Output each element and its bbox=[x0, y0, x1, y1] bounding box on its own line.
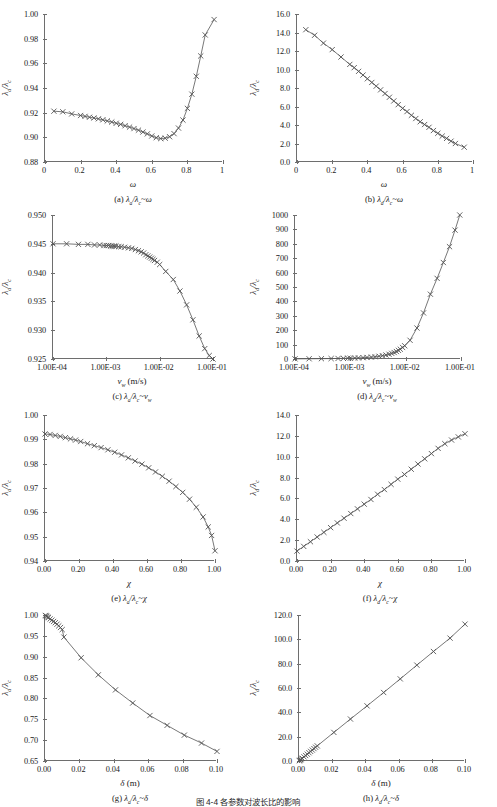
data-point-marker bbox=[421, 310, 426, 315]
data-point-marker bbox=[382, 91, 387, 96]
y-tick-label: 120.0 bbox=[248, 611, 292, 620]
data-point-marker bbox=[176, 125, 181, 130]
x-tick-label: 0.10 bbox=[209, 765, 223, 774]
plot-area-c bbox=[52, 215, 212, 359]
data-point-marker bbox=[190, 317, 195, 322]
y-tick-label: 12.0 bbox=[248, 431, 290, 440]
data-point-marker bbox=[96, 672, 101, 677]
plot-area-a bbox=[44, 14, 222, 162]
figure-bottom-caption: 图 4-4 各参数对波长比的影响 bbox=[196, 795, 301, 807]
y-tick-label: 0.945 bbox=[0, 239, 46, 248]
data-point-marker bbox=[395, 477, 400, 482]
y-axis-label: λa/λc bbox=[0, 68, 12, 108]
data-point-marker bbox=[415, 461, 420, 466]
data-point-marker bbox=[63, 435, 68, 440]
subplot-cell-d: 010020030040050060070080090010001.00E-04… bbox=[248, 199, 497, 399]
data-point-marker bbox=[418, 119, 423, 124]
data-point-marker bbox=[189, 92, 194, 97]
data-point-marker bbox=[462, 431, 467, 436]
data-point-marker bbox=[85, 441, 90, 446]
y-tick-label: 900 bbox=[248, 225, 288, 234]
data-point-marker bbox=[422, 456, 427, 461]
data-point-marker bbox=[182, 733, 187, 738]
data-point-marker bbox=[303, 27, 308, 32]
y-tick-label: 100 bbox=[248, 340, 288, 349]
x-tick-label: 0.6 bbox=[146, 166, 156, 175]
plot-e: 0.940.950.960.970.980.991.000.000.200.40… bbox=[0, 399, 248, 599]
data-point-marker bbox=[456, 434, 461, 439]
x-axis-label: δ (m) bbox=[120, 778, 139, 788]
data-point-marker bbox=[201, 514, 206, 519]
data-point-marker bbox=[360, 72, 365, 77]
data-point-marker bbox=[341, 516, 346, 521]
data-point-marker bbox=[184, 302, 189, 307]
data-point-marker bbox=[60, 627, 65, 632]
y-tick-label: 0.98 bbox=[0, 34, 38, 43]
data-point-marker bbox=[92, 443, 97, 448]
y-tick-label: 80.0 bbox=[248, 659, 292, 668]
plot-area-h bbox=[298, 615, 464, 761]
series-line bbox=[54, 20, 214, 139]
data-point-marker bbox=[206, 524, 211, 529]
y-tick-label: 0.95 bbox=[0, 631, 38, 640]
plot-a: 0.880.900.920.940.960.981.0000.20.40.60.… bbox=[0, 0, 248, 199]
data-point-marker bbox=[194, 505, 199, 510]
x-tick-label: 1 bbox=[220, 166, 224, 175]
y-tick-label: 0.0 bbox=[248, 557, 290, 566]
y-tick-label: 0.98 bbox=[0, 459, 38, 468]
data-point-marker bbox=[457, 212, 462, 217]
y-axis-label: λd/λc bbox=[248, 267, 260, 307]
data-point-marker bbox=[61, 635, 66, 640]
x-tick-label: 1.00E-01 bbox=[197, 363, 227, 372]
x-axis-label: vw (m/s) bbox=[117, 376, 146, 388]
subplot-cell-h: 0.020.040.060.080.0100.0120.00.000.020.0… bbox=[248, 599, 497, 799]
plot-c: 0.9250.9300.9350.9400.9450.9501.00E-041.… bbox=[0, 199, 248, 399]
data-point-marker bbox=[133, 458, 138, 463]
data-point-marker bbox=[321, 530, 326, 535]
data-point-marker bbox=[452, 228, 457, 233]
y-axis-label: λd/λc bbox=[248, 68, 260, 108]
data-point-marker bbox=[127, 125, 132, 130]
y-tick-label: 700 bbox=[248, 254, 288, 263]
y-tick-label: 0.930 bbox=[0, 326, 46, 335]
plot-b: 0.02.04.06.08.010.012.014.016.000.20.40.… bbox=[248, 0, 497, 199]
y-tick-label: 0.95 bbox=[0, 532, 38, 541]
plot-d: 010020030040050060070080090010001.00E-04… bbox=[248, 199, 497, 399]
x-tick-label: 1.00E-02 bbox=[390, 363, 420, 372]
x-tick-label: 1.00 bbox=[457, 565, 471, 574]
y-tick-label: 300 bbox=[248, 311, 288, 320]
plot-area-d bbox=[294, 215, 460, 359]
subplot-cell-f: 0.02.04.06.08.010.012.014.00.000.200.400… bbox=[248, 399, 497, 599]
y-tick-label: 0.65 bbox=[0, 757, 38, 766]
series-c bbox=[53, 215, 221, 367]
y-tick-label: 4.0 bbox=[248, 515, 290, 524]
data-point-marker bbox=[331, 730, 336, 735]
data-point-marker bbox=[112, 450, 117, 455]
y-tick-label: 800 bbox=[248, 239, 288, 248]
data-point-marker bbox=[447, 244, 452, 249]
y-tick-label: 1.00 bbox=[0, 411, 38, 420]
data-point-marker bbox=[374, 84, 379, 89]
x-tick-label: 0.02 bbox=[71, 765, 85, 774]
y-tick-label: 0.96 bbox=[0, 59, 38, 68]
data-point-marker bbox=[99, 445, 104, 450]
y-axis-label: λa/λc bbox=[0, 468, 12, 508]
y-tick-label: 1000 bbox=[248, 211, 288, 220]
x-tick-label: 0.2 bbox=[326, 166, 336, 175]
data-point-marker bbox=[109, 119, 114, 124]
data-point-marker bbox=[187, 497, 192, 502]
x-tick-label: 0.4 bbox=[361, 166, 371, 175]
plot-area-e bbox=[44, 415, 214, 561]
data-point-marker bbox=[160, 474, 165, 479]
data-point-marker bbox=[435, 276, 440, 281]
data-point-marker bbox=[197, 333, 202, 338]
data-point-marker bbox=[413, 116, 418, 121]
data-point-marker bbox=[328, 525, 333, 530]
x-tick-label: 0.08 bbox=[175, 765, 189, 774]
y-tick-label: 10.0 bbox=[248, 452, 290, 461]
data-point-marker bbox=[368, 497, 373, 502]
plot-g: 0.650.700.750.800.850.900.951.000.000.02… bbox=[0, 599, 248, 799]
series-a bbox=[45, 14, 231, 170]
data-point-marker bbox=[404, 109, 409, 114]
